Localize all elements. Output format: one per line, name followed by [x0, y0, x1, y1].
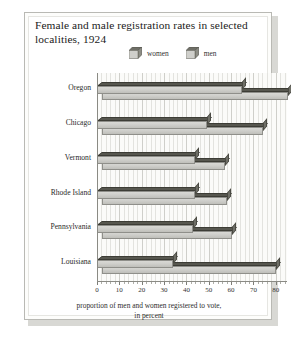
y-axis-label: Oregon	[68, 83, 91, 92]
x-tick-label: 10	[116, 286, 123, 294]
bar-group	[97, 73, 287, 108]
x-tick	[253, 282, 254, 285]
bar-women	[97, 221, 193, 233]
x-tick-minor	[146, 282, 147, 284]
x-tick-minor	[271, 282, 272, 284]
y-axis-label: Pennsylvania	[51, 222, 92, 231]
x-tick-minor	[267, 282, 268, 284]
x-axis-ticks: 01020304050607080	[97, 282, 287, 296]
y-axis-label: Vermont	[65, 153, 91, 162]
x-tick-minor	[115, 282, 116, 284]
x-tick-minor	[173, 282, 174, 284]
chart-title: Female and male registration rates in se…	[35, 19, 250, 46]
bar-side-face	[232, 223, 236, 236]
bar-side-face	[225, 153, 229, 166]
bar-front-face	[97, 260, 173, 268]
x-tick-minor	[218, 282, 219, 284]
bar-group	[97, 143, 287, 178]
x-tick	[142, 282, 143, 285]
x-tick-minor	[258, 282, 259, 284]
bar-women	[97, 117, 207, 129]
x-tick-minor	[124, 282, 125, 284]
x-tick	[276, 282, 277, 285]
chart-figure: Female and male registration rates in se…	[0, 0, 291, 340]
x-tick-minor	[137, 282, 138, 284]
bar-group	[97, 108, 287, 143]
x-tick-minor	[262, 282, 263, 284]
x-tick-minor	[155, 282, 156, 284]
caption-line-2: in percent	[43, 311, 255, 321]
x-tick-minor	[101, 282, 102, 284]
bar-front-face	[97, 86, 242, 94]
y-axis-label: Chicago	[66, 118, 91, 127]
bar-group	[97, 212, 287, 247]
x-tick-minor	[160, 282, 161, 284]
bar-side-face	[227, 188, 231, 201]
x-tick	[97, 282, 98, 285]
bar-front-face	[97, 225, 193, 233]
x-tick-label: 70	[250, 286, 257, 294]
legend-label-women: women	[147, 49, 169, 58]
x-tick-label: 40	[183, 286, 190, 294]
x-tick	[209, 282, 210, 285]
cube-icon	[129, 47, 142, 59]
x-tick-minor	[169, 282, 170, 284]
bar-side-face	[288, 83, 291, 96]
x-tick-minor	[151, 282, 152, 284]
cube-icon	[186, 47, 199, 59]
bar-front-face	[97, 191, 195, 199]
x-tick	[231, 282, 232, 285]
x-tick-minor	[182, 282, 183, 284]
x-tick-label: 60	[228, 286, 235, 294]
x-tick-minor	[128, 282, 129, 284]
x-tick-minor	[245, 282, 246, 284]
bar-women	[97, 82, 242, 94]
y-axis-line	[97, 73, 98, 282]
x-tick-label: 30	[161, 286, 168, 294]
x-tick-label: 80	[272, 286, 279, 294]
x-tick-minor	[240, 282, 241, 284]
bar-women	[97, 152, 195, 164]
x-tick-label: 50	[205, 286, 212, 294]
x-tick	[119, 282, 120, 285]
x-tick-minor	[236, 282, 237, 284]
x-tick-minor	[227, 282, 228, 284]
bar-side-face	[263, 118, 267, 131]
x-tick-label: 0	[95, 286, 99, 294]
x-tick	[186, 282, 187, 285]
x-tick-minor	[133, 282, 134, 284]
x-tick-minor	[191, 282, 192, 284]
x-tick-minor	[200, 282, 201, 284]
x-tick-minor	[204, 282, 205, 284]
y-axis-label: Rhode Island	[51, 188, 91, 197]
plot-area	[97, 73, 287, 282]
bar-group	[97, 178, 287, 213]
bar-women	[97, 187, 195, 199]
y-axis-label: Louisiana	[61, 257, 91, 266]
bar-front-face	[97, 156, 195, 164]
bar-front-face	[97, 121, 207, 129]
x-tick-minor	[213, 282, 214, 284]
x-tick-minor	[177, 282, 178, 284]
x-tick-minor	[249, 282, 250, 284]
y-axis-labels: OregonChicagoVermontRhode IslandPennsylv…	[25, 73, 95, 282]
bar-side-face	[276, 257, 280, 270]
chart-legend: women men	[129, 47, 217, 59]
x-tick	[164, 282, 165, 285]
bar-women	[97, 256, 173, 268]
x-tick-minor	[110, 282, 111, 284]
chart-card: Female and male registration rates in se…	[24, 12, 272, 320]
x-tick-minor	[222, 282, 223, 284]
legend-label-men: men	[204, 49, 217, 58]
x-tick-minor	[285, 282, 286, 284]
x-tick-minor	[280, 282, 281, 284]
chart-caption: proportion of men and women registered t…	[43, 301, 255, 320]
legend-item-women: women	[129, 47, 169, 59]
x-tick-label: 20	[138, 286, 145, 294]
x-tick-minor	[106, 282, 107, 284]
bar-group	[97, 247, 287, 282]
legend-item-men: men	[186, 47, 217, 59]
caption-line-1: proportion of men and women registered t…	[43, 301, 255, 311]
x-tick-minor	[195, 282, 196, 284]
